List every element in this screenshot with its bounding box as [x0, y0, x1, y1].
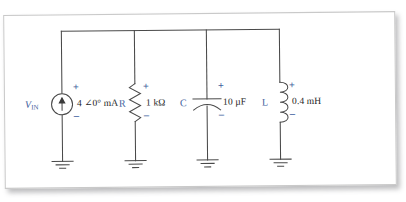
top-rail-wire	[61, 29, 279, 31]
inductor-designator: L	[262, 97, 268, 107]
circuit-diagram: VIN 4 ∠0° mA + − R 1 kΩ + − C 10 µF + − …	[3, 11, 395, 187]
screenshot-root: VIN 4 ∠0° mA + − R 1 kΩ + − C 10 µF + − …	[0, 0, 406, 202]
inductor-value: 0.4 mH	[292, 97, 321, 107]
capacitor-bottom-lead	[207, 106, 208, 160]
inductor-polarity-minus: −	[289, 109, 296, 120]
inductor-top-lead	[279, 29, 280, 82]
current-source-arrow-head	[58, 97, 65, 104]
source-polarity-plus: +	[73, 82, 79, 92]
resistor-zigzag	[129, 84, 140, 122]
capacitor-top-lead	[206, 30, 207, 99]
source-designator-subscript: IN	[31, 103, 38, 111]
resistor-polarity-minus: −	[143, 110, 150, 121]
capacitor-value: 10 µF	[223, 98, 246, 108]
inductor-coils	[280, 82, 288, 122]
capacitor-polarity-plus: +	[218, 81, 224, 91]
source-top-lead	[61, 31, 62, 93]
resistor-value: 1 kΩ	[146, 98, 165, 108]
capacitor-polarity-minus: −	[218, 110, 225, 121]
capacitor-designator: C	[180, 98, 187, 108]
resistor-top-lead	[134, 31, 135, 84]
resistor-designator: R	[119, 99, 126, 109]
source-value: 4 ∠0° mA	[77, 99, 118, 109]
inductor-polarity-plus: +	[289, 80, 295, 90]
source-designator: VIN	[25, 100, 39, 110]
circuit-schematic-svg	[3, 11, 395, 187]
source-polarity-minus: −	[73, 111, 80, 122]
resistor-polarity-plus: +	[143, 81, 149, 91]
